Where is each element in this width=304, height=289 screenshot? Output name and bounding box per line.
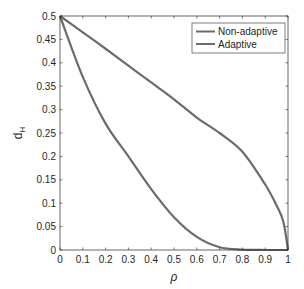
legend-label-adaptive: Adaptive	[218, 39, 257, 50]
y-axis-label-subscript: H	[18, 127, 27, 133]
y-tick-label: 0.4	[42, 57, 56, 68]
y-tick-label: 0.45	[37, 34, 57, 45]
x-tick-label: 0.5	[167, 254, 181, 265]
x-tick-label: 0.9	[258, 254, 272, 265]
x-tick-label: 0.2	[99, 254, 113, 265]
x-tick-label: 0.6	[190, 254, 204, 265]
y-tick-label: 0.1	[42, 198, 56, 209]
x-axis-label: ρ	[170, 270, 178, 284]
legend: Non-adaptive Adaptive	[192, 23, 285, 53]
y-tick-label: 0.05	[37, 221, 57, 232]
x-tick-label: 0.1	[76, 254, 90, 265]
x-tick-label: 0.4	[144, 254, 158, 265]
y-tick-label: 0	[50, 245, 56, 256]
x-tick-label: 0.8	[235, 254, 249, 265]
y-tick-label: 0.3	[42, 104, 56, 115]
svg-text:dH: dH	[11, 127, 27, 140]
x-tick-label: 0	[57, 254, 63, 265]
y-tick-label: 0.5	[42, 11, 56, 22]
y-tick-label: 0.2	[42, 151, 56, 162]
y-axis-label: dH	[11, 127, 27, 140]
y-tick-label: 0.25	[37, 128, 57, 139]
x-tick-label: 0.7	[213, 254, 227, 265]
x-tick-label: 1	[285, 254, 291, 265]
legend-label-non-adaptive: Non-adaptive	[218, 26, 278, 37]
y-tick-label: 0.15	[37, 174, 57, 185]
y-tick-label: 0.35	[37, 81, 57, 92]
x-tick-label: 0.3	[121, 254, 135, 265]
y-axis-label-main: d	[11, 133, 25, 140]
line-chart: 00.10.20.30.40.50.60.70.80.9100.050.10.1…	[0, 0, 304, 289]
